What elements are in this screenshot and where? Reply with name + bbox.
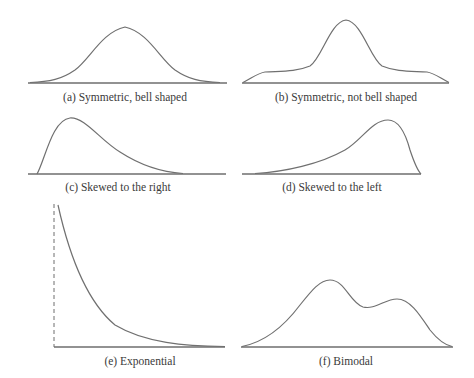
panel-a-caption: (a) Symmetric, bell shaped [63, 91, 187, 104]
panel-d-curve [255, 120, 421, 174]
panel-a-curve [30, 27, 220, 83]
panel-c-caption: (c) Skewed to the right [65, 181, 171, 194]
panel-c-curve [37, 118, 183, 174]
distribution-shapes-figure: (a) Symmetric, bell shaped (b) Symmetric… [0, 0, 474, 378]
panel-f-curve [242, 280, 452, 347]
panel-a-bell-shaped: (a) Symmetric, bell shaped [28, 27, 227, 104]
panel-f-caption: (f) Bimodal [319, 355, 373, 368]
panel-b-not-bell-shaped: (b) Symmetric, not bell shaped [242, 20, 449, 104]
panel-d-caption: (d) Skewed to the left [282, 181, 382, 194]
panel-e-curve [58, 205, 225, 347]
panel-b-caption: (b) Symmetric, not bell shaped [275, 91, 417, 104]
panel-c-skewed-right: (c) Skewed to the right [28, 118, 226, 194]
panel-e-exponential: (e) Exponential [54, 204, 225, 368]
panel-f-bimodal: (f) Bimodal [241, 280, 453, 368]
panel-e-caption: (e) Exponential [104, 355, 175, 368]
panel-b-curve [243, 20, 449, 83]
panel-d-skewed-left: (d) Skewed to the left [242, 120, 421, 194]
